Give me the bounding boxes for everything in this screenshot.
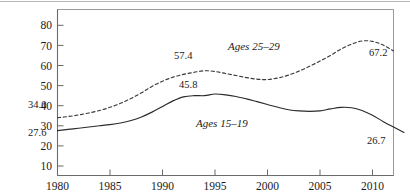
x-tick-label-1990: 1990 xyxy=(151,180,174,192)
annotation-end-ages-25-29: 67.2 xyxy=(369,47,387,58)
series-label-ages-15-19: Ages 15–19 xyxy=(195,117,248,129)
annotation-peak-ages-25-29: 57.4 xyxy=(174,50,193,61)
x-axis: 1980 1985 1990 1995 2000 2005 2010 xyxy=(46,170,394,193)
series-line-ages-25-29 xyxy=(58,41,394,118)
chart-canvas: 80 70 60 50 40 30 20 10 1980 1985 1990 1… xyxy=(0,0,410,196)
y-tick-label-80: 80 xyxy=(41,19,53,31)
x-tick-label-1995: 1995 xyxy=(204,180,227,192)
series-label-ages-25-29: Ages 25–29 xyxy=(227,40,280,52)
y-tick-label-60: 60 xyxy=(41,60,53,72)
x-tick-label-2000: 2000 xyxy=(256,180,279,192)
y-tick-label-70: 70 xyxy=(41,40,53,52)
x-tick-label-1980: 1980 xyxy=(46,180,69,192)
y-tick-label-20: 20 xyxy=(41,140,53,152)
plot-frame xyxy=(58,10,394,176)
y-tick-label-10: 10 xyxy=(41,160,53,172)
annotation-end-ages-15-19: 26.7 xyxy=(367,135,385,146)
y-axis: 80 70 60 50 40 30 20 10 xyxy=(41,10,64,176)
x-tick-label-1985: 1985 xyxy=(99,180,122,192)
y-tick-label-50: 50 xyxy=(41,80,53,92)
x-tick-label-2010: 2010 xyxy=(361,180,384,192)
annotation-start-ages-15-19: 27.6 xyxy=(28,127,46,138)
annotation-start-ages-25-29: 34.0 xyxy=(28,99,46,110)
x-tick-label-2005: 2005 xyxy=(309,180,332,192)
line-chart: 80 70 60 50 40 30 20 10 1980 1985 1990 1… xyxy=(0,0,410,196)
annotation-peak-ages-15-19: 45.8 xyxy=(179,79,197,90)
